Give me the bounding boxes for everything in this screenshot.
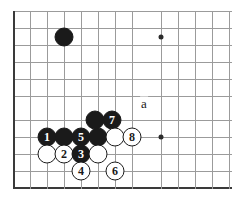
grid-line-h-1 bbox=[13, 28, 232, 29]
stone-move-number: 5 bbox=[78, 131, 84, 143]
grid-line-h-0 bbox=[13, 11, 232, 12]
board-left-edge bbox=[13, 11, 15, 189]
white-stone-move-8[interactable]: 8 bbox=[123, 128, 142, 147]
grid-line-v-12 bbox=[212, 11, 213, 189]
white-stone-plain-right[interactable] bbox=[89, 145, 108, 164]
stone-move-number: 6 bbox=[112, 165, 118, 177]
upper-right-hoshi bbox=[159, 35, 164, 40]
stone-move-number: 1 bbox=[44, 131, 50, 143]
grid-line-h-3 bbox=[13, 62, 232, 63]
lower-right-hoshi bbox=[159, 135, 164, 140]
grid-line-h-2 bbox=[13, 45, 232, 46]
grid-line-h-4 bbox=[13, 79, 232, 80]
grid-line-v-13 bbox=[229, 11, 230, 189]
stone-move-number: 4 bbox=[78, 165, 84, 177]
black-stone-upper-left[interactable] bbox=[55, 28, 74, 47]
grid-line-h-5 bbox=[13, 96, 232, 97]
grid-line-v-7 bbox=[132, 11, 133, 189]
stone-move-number: 2 bbox=[61, 148, 67, 160]
stone-move-number: 7 bbox=[109, 114, 115, 126]
go-board-diagram: 71582346a bbox=[0, 0, 232, 201]
point-label-a: a bbox=[140, 97, 148, 110]
grid-line-v-1 bbox=[30, 11, 31, 189]
stone-move-number: 8 bbox=[129, 131, 135, 143]
black-stone-plain-upper[interactable] bbox=[86, 111, 105, 130]
grid-line-h-7 bbox=[13, 120, 232, 121]
white-stone-move-4[interactable]: 4 bbox=[72, 162, 91, 181]
stone-move-number: 3 bbox=[78, 148, 84, 160]
board-bottom-edge bbox=[13, 187, 232, 189]
grid-line-v-10 bbox=[178, 11, 179, 189]
grid-line-v-11 bbox=[195, 11, 196, 189]
black-stone-move-7[interactable]: 7 bbox=[103, 111, 122, 130]
white-stone-move-6[interactable]: 6 bbox=[106, 162, 125, 181]
